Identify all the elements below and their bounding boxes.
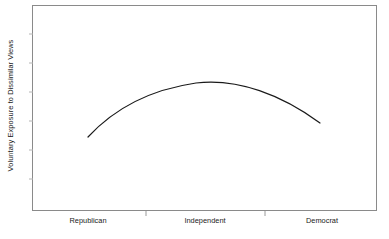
y-axis-title-text: Voluntary Exposure to Dissimilar Views <box>7 40 16 172</box>
chart-figure: Voluntary Exposure to Dissimilar Views R… <box>0 0 389 239</box>
x-tick-label-democrat: Democrat <box>306 216 338 225</box>
x-tick-label-independent: Independent <box>184 216 225 225</box>
plot-area-frame <box>32 5 377 211</box>
y-axis-title: Voluntary Exposure to Dissimilar Views <box>0 0 22 211</box>
x-tick-label-republican: Republican <box>70 216 107 225</box>
